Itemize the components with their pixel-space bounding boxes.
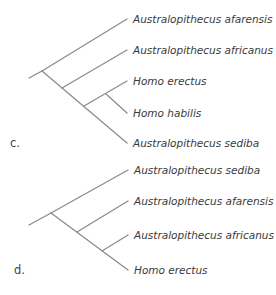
taxon-label: Australopithecus africanus — [134, 229, 274, 241]
cladogram-d-branches — [0, 0, 276, 295]
panel-label-d: d. — [14, 264, 25, 276]
taxon-label: Homo erectus — [134, 264, 208, 276]
taxon-label: Australopithecus afarensis — [134, 195, 273, 207]
taxon-label: Australopithecus sediba — [134, 164, 260, 176]
